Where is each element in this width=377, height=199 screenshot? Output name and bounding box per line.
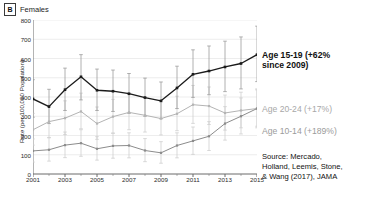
data-point — [96, 89, 99, 92]
data-point — [128, 92, 131, 95]
source-citation: Source: Mercado, Holland, Leemis, Stone,… — [262, 152, 343, 182]
data-point — [240, 62, 243, 65]
y-tick-label: 800 — [21, 17, 31, 24]
data-point — [80, 75, 83, 78]
y-tick-label: 200 — [21, 132, 31, 139]
data-point — [64, 144, 66, 146]
data-point — [33, 129, 34, 131]
data-point — [48, 121, 50, 123]
data-point — [144, 114, 146, 116]
y-tick-label: 600 — [21, 55, 31, 62]
annotation-age-10-14: Age 10-14 (+189%) — [262, 126, 337, 136]
data-point — [192, 104, 194, 106]
x-axis-tick-labels: 20012003200520072009201120132015 — [33, 176, 257, 190]
data-point — [144, 96, 147, 99]
data-point — [160, 100, 163, 103]
data-point — [128, 144, 130, 146]
data-point — [176, 144, 178, 146]
annotation-age-15-19: Age 15-19 (+62% since 2009) — [262, 50, 330, 71]
data-point — [64, 117, 66, 119]
data-point — [96, 122, 98, 124]
y-tick-label: 500 — [21, 74, 31, 81]
y-tick-label: 300 — [21, 113, 31, 120]
data-point — [96, 148, 98, 150]
data-point — [160, 117, 162, 119]
data-point — [33, 150, 34, 152]
y-axis-tick-labels: 0100200300400500600700800 — [0, 20, 31, 174]
data-point — [33, 98, 34, 101]
plot-area — [33, 20, 257, 174]
data-point — [176, 113, 178, 115]
data-point — [224, 112, 226, 114]
data-point — [48, 105, 51, 108]
y-tick-label: 400 — [21, 94, 31, 101]
x-tick-label: 2001 — [26, 176, 40, 183]
x-tick-label: 2007 — [122, 176, 136, 183]
x-tick-label: 2009 — [154, 176, 168, 183]
data-point — [112, 90, 115, 93]
data-point — [80, 110, 82, 112]
data-point — [192, 140, 194, 142]
data-point — [64, 88, 67, 91]
annotation-age-20-24: Age 20-24 (+17%) — [262, 104, 332, 114]
data-point — [128, 111, 130, 113]
panel-letter-box: B — [4, 3, 16, 16]
panel-label: B Females — [4, 3, 49, 16]
data-point — [208, 105, 210, 107]
data-point — [256, 53, 257, 56]
data-point — [112, 145, 114, 147]
panel-title: Females — [20, 6, 49, 14]
figure-panel-b: B Females Rate (per 100,000 Population) … — [0, 0, 377, 199]
data-point — [176, 87, 179, 90]
data-point — [144, 149, 146, 151]
data-point — [80, 142, 82, 144]
chart-svg — [33, 20, 257, 180]
error-bars-age-15-19 — [33, 26, 257, 123]
data-point — [224, 122, 226, 124]
data-point — [224, 66, 227, 69]
data-point — [240, 109, 242, 111]
y-tick-label: 100 — [21, 151, 31, 158]
data-point — [48, 149, 50, 151]
x-tick-label: 2013 — [218, 176, 232, 183]
data-point — [160, 152, 162, 154]
x-tick-label: 2011 — [186, 176, 199, 183]
data-point — [192, 73, 195, 76]
x-tick-label: 2005 — [90, 176, 104, 183]
y-tick-label: 700 — [21, 36, 31, 43]
data-point — [240, 115, 242, 117]
data-point — [208, 135, 210, 137]
data-point — [256, 107, 257, 109]
data-point — [112, 116, 114, 118]
x-tick-label: 2003 — [58, 176, 72, 183]
data-point — [208, 70, 211, 73]
